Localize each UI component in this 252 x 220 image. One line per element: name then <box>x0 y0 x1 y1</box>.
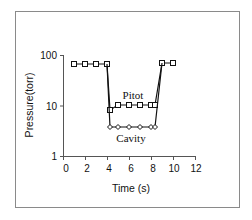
y-tick-label: 10 <box>46 101 58 112</box>
y-tick-label: 1 <box>51 151 57 162</box>
x-tick-label: 10 <box>168 163 180 174</box>
x-tick-label: 0 <box>63 163 69 174</box>
x-tick-label: 6 <box>128 163 134 174</box>
chart: 100 10 1 Pressure(torr) 0 2 4 6 8 10 12 … <box>0 0 252 220</box>
y-tick-label: 100 <box>40 50 57 61</box>
cavity-label: Cavity <box>116 132 146 144</box>
x-axis-label: Time (s) <box>112 182 150 194</box>
x-tick-label: 8 <box>150 163 156 174</box>
pitot-label: Pitot <box>123 89 144 101</box>
x-tick-label: 2 <box>84 163 90 174</box>
x-tick-label: 4 <box>106 163 112 174</box>
y-axis-label: Pressure(torr) <box>23 73 35 138</box>
x-tick-label: 12 <box>190 163 202 174</box>
